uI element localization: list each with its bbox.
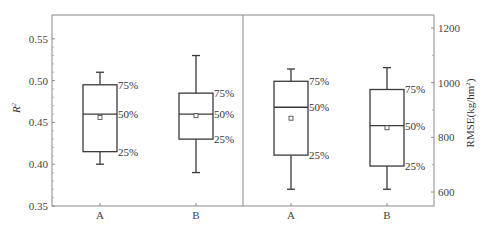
y-tick-label: 0.35 (29, 200, 49, 212)
x-tick-label: A (96, 209, 104, 221)
mean-marker (289, 116, 293, 120)
y-axis-title-right: RMSE(kg/hm2) (464, 78, 477, 147)
y-tick-label: 600 (438, 186, 455, 198)
percentile-label: 50% (214, 108, 234, 120)
percentile-label: 75% (309, 75, 329, 87)
mean-marker (385, 126, 389, 130)
percentile-label: 50% (309, 101, 329, 113)
y-tick-label: 800 (438, 131, 455, 143)
y-tick-label: 0.40 (29, 158, 49, 170)
percentile-label: 25% (214, 133, 234, 145)
x-tick-label: B (192, 209, 199, 221)
r2-panel: 0.350.400.450.500.55A75%50%25%B75%50%25% (29, 33, 234, 221)
y-tick-label: 0.45 (29, 116, 49, 128)
box-a: A75%50%25% (83, 72, 138, 221)
y-tick-label: 0.55 (29, 33, 49, 45)
box-b: B75%50%25% (370, 68, 425, 221)
percentile-label: 75% (118, 79, 138, 91)
x-tick-label: B (383, 209, 390, 221)
y-tick-label: 0.50 (29, 75, 49, 87)
y-axis-title-left: R2 (10, 102, 22, 114)
x-tick-label: A (287, 209, 295, 221)
percentile-label: 50% (118, 108, 138, 120)
percentile-label: 25% (118, 146, 138, 158)
rmse-panel: 60080010001200A75%50%25%B75%50%25% (274, 22, 461, 221)
percentile-label: 25% (405, 160, 425, 172)
box-a: A75%50%25% (274, 69, 329, 221)
percentile-label: 25% (309, 149, 329, 161)
mean-marker (98, 115, 102, 119)
box-b: B75%50%25% (179, 56, 234, 221)
mean-marker (194, 114, 198, 118)
percentile-label: 75% (405, 83, 425, 95)
percentile-label: 50% (405, 120, 425, 132)
y-tick-label: 1200 (438, 22, 461, 34)
percentile-label: 75% (214, 87, 234, 99)
y-tick-label: 1000 (438, 77, 461, 89)
box-plot-chart: 0.350.400.450.500.55A75%50%25%B75%50%25%… (0, 0, 486, 231)
